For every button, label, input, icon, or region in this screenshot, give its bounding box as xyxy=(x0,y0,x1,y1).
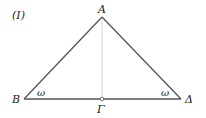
angle-left: ω xyxy=(37,87,45,98)
point-gamma xyxy=(100,97,104,101)
label-b: B xyxy=(11,93,20,106)
angle-right: ω xyxy=(161,87,169,98)
label-delta: Δ xyxy=(184,93,193,106)
label-gamma: Γ xyxy=(96,103,105,116)
side-ab xyxy=(24,17,102,99)
triangle-diagram: (I) A B Γ Δ ω ω xyxy=(0,0,206,118)
label-a: A xyxy=(97,3,106,16)
figure-tag: (I) xyxy=(12,9,25,22)
